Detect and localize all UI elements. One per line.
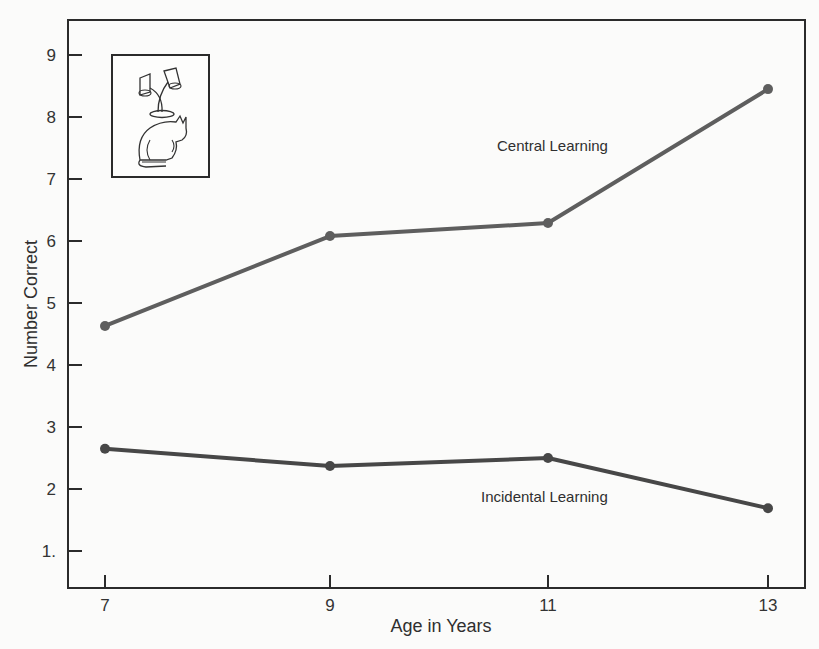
- line-chart: 1.23456789 791113 Age in Years Number Co…: [0, 0, 819, 649]
- data-point: [100, 321, 110, 331]
- data-point: [763, 503, 773, 513]
- series-line: [105, 449, 768, 509]
- y-tick-label: 5: [47, 294, 56, 313]
- y-tick-label: 8: [47, 108, 56, 127]
- data-point: [543, 453, 553, 463]
- y-axis: 1.23456789: [42, 46, 82, 561]
- x-axis-title: Age in Years: [390, 616, 491, 636]
- x-axis: 791113: [100, 575, 777, 615]
- x-tick-label: 11: [539, 596, 557, 615]
- y-tick-label: 1.: [42, 542, 56, 561]
- y-tick-label: 3: [47, 418, 56, 437]
- x-tick-label: 13: [759, 596, 778, 615]
- series-incidental-learning: [100, 444, 773, 514]
- x-tick-label: 9: [325, 596, 334, 615]
- data-point: [543, 218, 553, 228]
- y-tick-label: 9: [47, 46, 56, 65]
- y-tick-label: 7: [47, 170, 56, 189]
- y-tick-label: 4: [47, 356, 56, 375]
- x-tick-label: 7: [100, 596, 109, 615]
- cat-lamp-illustration-icon: [112, 55, 209, 177]
- incidental-learning-label: Incidental Learning: [481, 488, 608, 505]
- central-learning-label: Central Learning: [497, 137, 608, 154]
- y-tick-label: 6: [47, 232, 56, 251]
- data-point: [763, 84, 773, 94]
- y-axis-title: Number Correct: [21, 240, 41, 368]
- data-point: [325, 231, 335, 241]
- data-point: [325, 461, 335, 471]
- data-point: [100, 444, 110, 454]
- y-tick-label: 2: [47, 480, 56, 499]
